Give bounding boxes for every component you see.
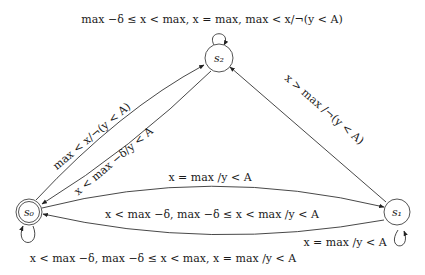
node-s2: s₂ bbox=[205, 44, 233, 72]
node-s1: s₁ bbox=[384, 199, 410, 225]
node-label-s1: s₁ bbox=[392, 206, 402, 219]
edge-label-s2-self: max −δ ≤ x < max, x = max, max < x/¬(y <… bbox=[81, 13, 342, 26]
edge-label-s1-to-s0: x < max −δ, max −δ ≤ x < max /y < A bbox=[105, 208, 320, 221]
edge-label-s1-self: x = max /y < A bbox=[303, 236, 387, 249]
edge-label-s0-self: x < max −δ, max −δ ≤ x < max, x = max /y… bbox=[30, 252, 298, 265]
edge-s0-self bbox=[21, 226, 35, 243]
edge-s2-to-s0 bbox=[42, 71, 211, 204]
edge-s2-self bbox=[212, 34, 225, 45]
edge-label-s0-to-s1: x = max /y < A bbox=[168, 171, 252, 184]
edge-s0-to-s1 bbox=[42, 186, 384, 208]
edge-s1-self bbox=[394, 230, 405, 246]
edge-label-s1-to-s2: x > max /¬(y < A) bbox=[282, 71, 367, 147]
node-label-s2: s₂ bbox=[214, 52, 224, 65]
node-label-s0: s₀ bbox=[24, 206, 35, 219]
node-s0: s₀ bbox=[16, 199, 42, 225]
state-diagram: max −δ ≤ x < max, x = max, max < x/¬(y <… bbox=[0, 0, 425, 275]
